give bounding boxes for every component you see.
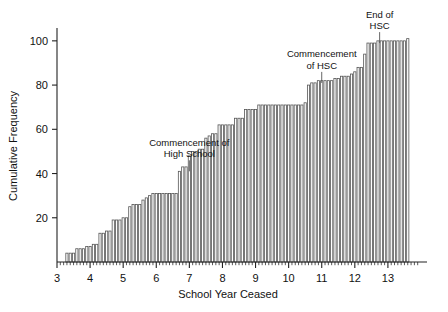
bar [331, 81, 333, 262]
bar [311, 83, 313, 262]
x-tick-label: 11 [316, 272, 327, 284]
bar [198, 149, 200, 262]
x-tick-label: 10 [283, 272, 295, 284]
bar [324, 81, 326, 262]
x-tick-label: 7 [186, 272, 192, 284]
bar [66, 253, 68, 262]
bar [132, 205, 134, 263]
bar [294, 105, 296, 262]
bar [387, 41, 389, 262]
bar [125, 218, 127, 262]
bar [99, 233, 101, 262]
bar [96, 244, 98, 262]
bar [327, 81, 329, 262]
annotation-label: of HSC [306, 60, 337, 71]
bar [86, 247, 88, 262]
bar [188, 156, 190, 262]
bar [364, 54, 366, 262]
y-axis-title: Cumulative Frequency [7, 90, 19, 201]
bar [79, 249, 81, 262]
bar [92, 244, 94, 262]
y-tick-label: 40 [36, 168, 48, 180]
bar [69, 253, 71, 262]
bar [288, 105, 290, 262]
bar [135, 205, 137, 263]
x-tick-label: 9 [252, 272, 258, 284]
x-tick-label: 12 [349, 272, 361, 284]
bar [407, 39, 409, 262]
bar [175, 193, 177, 262]
bar [245, 109, 247, 262]
bar [152, 193, 154, 262]
annotation-label: High School [164, 148, 215, 159]
bar [261, 105, 263, 262]
bar [390, 41, 392, 262]
bar [400, 41, 402, 262]
bar [274, 105, 276, 262]
bar [393, 41, 395, 262]
bar [119, 220, 121, 262]
bar [258, 105, 260, 262]
bar [254, 109, 256, 262]
bar [142, 200, 144, 262]
y-tick-label: 100 [30, 35, 48, 47]
bar [102, 233, 104, 262]
bar [347, 76, 349, 262]
bar [357, 67, 359, 262]
bar [158, 193, 160, 262]
bar [172, 193, 174, 262]
bar [195, 151, 197, 262]
bar [139, 205, 141, 263]
bar [281, 105, 283, 262]
x-tick-label: 4 [87, 272, 93, 284]
cumulative-frequency-chart: 345678910111213 20406080100 Commencement… [0, 0, 448, 312]
bar [251, 109, 253, 262]
bar [297, 105, 299, 262]
y-tick-label: 80 [36, 79, 48, 91]
bar [149, 196, 151, 262]
bar [155, 193, 157, 262]
bar [291, 105, 293, 262]
bar [301, 105, 303, 262]
bar [321, 81, 323, 262]
y-tick-label: 20 [36, 212, 48, 224]
bar [231, 125, 233, 262]
bar [162, 193, 164, 262]
bar [403, 41, 405, 262]
bar [367, 43, 369, 262]
chart-canvas: 345678910111213 20406080100 Commencement… [0, 0, 448, 312]
bar [374, 43, 376, 262]
bar [82, 249, 84, 262]
bar [278, 105, 280, 262]
bar [168, 193, 170, 262]
bar [115, 220, 117, 262]
bar [109, 231, 111, 262]
bar [334, 78, 336, 262]
bar [380, 41, 382, 262]
bar [185, 167, 187, 262]
x-axis-title: School Year Ceased [178, 288, 278, 300]
bar [76, 249, 78, 262]
bar [360, 67, 362, 262]
bar [106, 231, 108, 262]
bar [241, 118, 243, 262]
bar [314, 83, 316, 262]
y-tick-label: 60 [36, 123, 48, 135]
bar [344, 76, 346, 262]
bar [317, 81, 319, 262]
bar [248, 109, 250, 262]
bar [370, 43, 372, 262]
bar [350, 74, 352, 262]
bar [112, 220, 114, 262]
bar [182, 167, 184, 262]
annotation-label: Commencement of [149, 137, 230, 148]
bar [202, 149, 204, 262]
bar [235, 118, 237, 262]
bar [122, 218, 124, 262]
bar [72, 253, 74, 262]
annotation-label: HSC [370, 20, 390, 31]
bar [304, 103, 306, 262]
bar [340, 76, 342, 262]
bar [145, 198, 147, 262]
annotation-label: Commencement [287, 48, 357, 59]
